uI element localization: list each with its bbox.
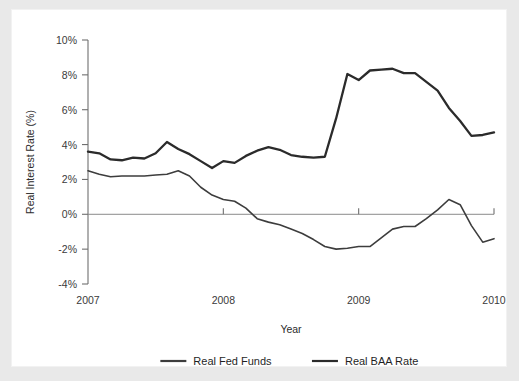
line-chart: -4%-2%0%2%4%6%8%10%2007200820092010YearR… [12,10,506,366]
screenshot-root: -4%-2%0%2%4%6%8%10%2007200820092010YearR… [0,0,519,381]
y-tick-label: -2% [58,243,77,255]
x-tick-label: 2007 [76,294,100,306]
legend-label-real-baa-rate: Real BAA Rate [345,355,418,366]
y-axis-title: Real Interest Rate (%) [24,110,36,214]
y-tick-label: 10% [56,34,77,46]
y-tick-label: 6% [62,104,77,116]
x-tick-label: 2009 [347,294,371,306]
chart-panel: -4%-2%0%2%4%6%8%10%2007200820092010YearR… [12,10,506,366]
y-tick-label: 4% [62,139,77,151]
legend-label-real-fed-funds: Real Fed Funds [193,355,272,366]
y-tick-label: 8% [62,69,77,81]
y-tick-label: -4% [58,278,77,290]
x-tick-label: 2008 [212,294,236,306]
y-tick-label: 2% [62,173,77,185]
y-tick-label: 0% [62,208,77,220]
x-tick-label: 2010 [482,294,506,306]
series-line-real-fed-funds [88,171,494,249]
x-axis-title: Year [280,323,302,335]
series-line-real-baa-rate [88,69,494,168]
